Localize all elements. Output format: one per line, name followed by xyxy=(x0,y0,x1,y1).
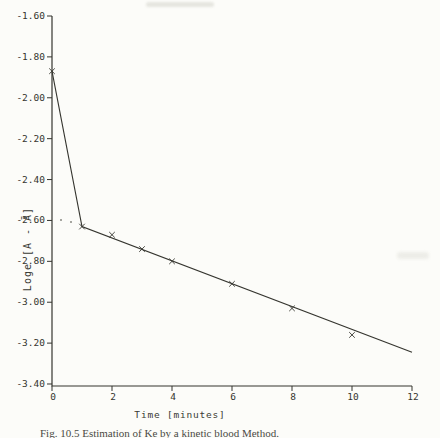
chart-canvas: -1.60-1.80-2.00-2.20-2.40-2.60-2.80-3.00… xyxy=(0,0,440,438)
y-tick-label: -1.60 xyxy=(16,10,45,21)
x-tick-label: 6 xyxy=(230,391,236,402)
x-tick-label: 2 xyxy=(110,391,116,402)
scan-artifact xyxy=(146,2,214,7)
y-tick-label: -1.80 xyxy=(16,51,45,62)
scan-speck xyxy=(60,219,62,221)
x-axis-title: Time [minutes] xyxy=(134,409,225,420)
x-tick-label: 12 xyxy=(407,391,418,402)
x-tick-label: 0 xyxy=(50,391,56,402)
y-tick-label: -3.20 xyxy=(16,337,45,348)
scan-speck xyxy=(70,221,72,223)
y-tick-label: -2.20 xyxy=(16,133,45,144)
y-tick-label: -2.40 xyxy=(16,174,45,185)
y-tick-label: -3.00 xyxy=(16,296,45,307)
observed-points-marker xyxy=(349,332,355,338)
x-tick-label: 4 xyxy=(170,391,176,402)
figure-caption: Fig. 10.5 Estimation of Ke by a kinetic … xyxy=(40,427,279,438)
scanned-figure-page: -1.60-1.80-2.00-2.20-2.40-2.60-2.80-3.00… xyxy=(0,0,440,438)
x-tick-label: 10 xyxy=(347,391,359,402)
axis-lines xyxy=(52,16,412,386)
fitted-line-line xyxy=(52,71,412,352)
x-tick-label: 8 xyxy=(290,391,296,402)
y-axis-title: Loge [A - Ā] xyxy=(22,207,33,291)
y-tick-label: -2.00 xyxy=(16,92,45,103)
scan-artifact xyxy=(397,252,429,259)
y-tick-label: -3.40 xyxy=(16,378,45,389)
